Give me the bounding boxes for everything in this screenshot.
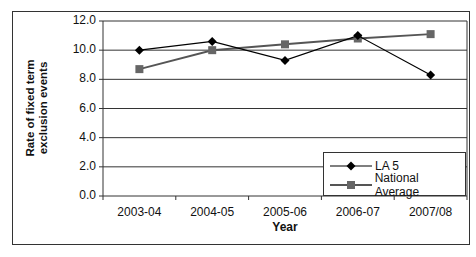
y-tick-label: 8.0 (56, 71, 96, 85)
diamond-marker-icon (330, 161, 372, 171)
x-tick-label: 2007/08 (396, 205, 466, 219)
legend-label: National Average (375, 171, 465, 199)
series-lines (135, 30, 435, 79)
y-axis-label-line-1: Rate of fixed term (24, 38, 37, 178)
y-tick-label: 10.0 (56, 42, 96, 56)
y-tick-label: 12.0 (56, 13, 96, 27)
square-marker-icon (330, 180, 372, 190)
y-tick-label: 6.0 (56, 101, 96, 115)
x-tick-label: 2006-07 (323, 205, 393, 219)
legend: LA 5 National Average (323, 152, 466, 196)
y-tick-label: 4.0 (56, 130, 96, 144)
y-axis-label-line-2: exclusion events (37, 38, 50, 178)
x-tick-label: 2004-05 (177, 205, 247, 219)
x-tick-label: 2003-04 (104, 205, 174, 219)
x-axis-label: Year (250, 220, 320, 234)
x-tick-label: 2005-06 (250, 205, 320, 219)
legend-item-national-average: National Average (330, 177, 465, 193)
y-axis-label: Rate of fixed term exclusion events (24, 38, 50, 178)
y-tick-label: 2.0 (56, 159, 96, 173)
y-tick-label: 0.0 (56, 188, 96, 202)
